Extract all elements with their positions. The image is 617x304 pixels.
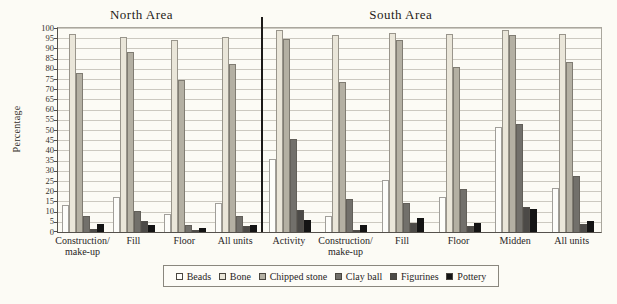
y-tick-mark: [54, 110, 58, 111]
bar-chipped-stone: [396, 40, 403, 232]
bar-figurines: [580, 224, 587, 232]
bar-clay-ball: [290, 139, 297, 232]
y-tick-label: 95: [32, 34, 54, 43]
y-tick-mark: [54, 201, 58, 202]
bar-beads: [439, 197, 446, 232]
bar-beads: [552, 188, 559, 232]
bar-bone: [171, 40, 178, 232]
bar-pottery: [474, 223, 481, 232]
gridline: [58, 120, 601, 121]
bar-chipped-stone: [178, 80, 185, 232]
bar-bone: [559, 34, 566, 232]
bar-figurines: [90, 229, 97, 232]
legend-item-chipped-stone: Chipped stone: [259, 271, 328, 282]
bar-figurines: [353, 230, 360, 232]
bar-bone: [276, 30, 283, 232]
bar-clay-ball: [83, 216, 90, 232]
bar-chipped-stone: [76, 73, 83, 232]
legend-item-bone: Bone: [219, 271, 251, 282]
x-category-label-line: make-up: [36, 246, 128, 257]
y-tick-label: 20: [32, 187, 54, 196]
legend-item-pottery: Pottery: [446, 271, 486, 282]
bar-beads: [113, 197, 120, 232]
y-tick-mark: [54, 130, 58, 131]
bar-beads: [62, 205, 69, 232]
gridline: [58, 89, 601, 90]
bar-figurines: [410, 223, 417, 232]
legend: BeadsBoneChipped stoneClay ballFigurines…: [163, 265, 499, 287]
legend-swatch-icon: [259, 273, 266, 280]
legend-swatch-icon: [446, 273, 453, 280]
legend-label: Beads: [187, 271, 211, 282]
legend-label: Pottery: [457, 271, 486, 282]
y-tick-mark: [54, 120, 58, 121]
y-tick-label: 80: [32, 64, 54, 73]
bar-clay-ball: [403, 203, 410, 232]
bar-pottery: [360, 225, 367, 232]
bar-chipped-stone: [127, 52, 134, 232]
y-tick-mark: [54, 28, 58, 29]
legend-item-figurines: Figurines: [390, 271, 439, 282]
bar-pottery: [250, 225, 257, 232]
legend-label: Figurines: [401, 271, 439, 282]
gridline: [58, 38, 601, 39]
gridline: [58, 28, 601, 29]
y-tick-label: 55: [32, 115, 54, 124]
figure: Percentage 05101520253035404550556065707…: [0, 0, 617, 304]
y-tick-label: 40: [32, 146, 54, 155]
gridline: [58, 99, 601, 100]
legend-item-beads: Beads: [176, 271, 211, 282]
bar-chipped-stone: [283, 39, 290, 232]
y-tick-label: 15: [32, 197, 54, 206]
y-tick-label: 65: [32, 95, 54, 104]
y-tick-mark: [54, 140, 58, 141]
bar-figurines: [523, 207, 530, 233]
y-tick-mark: [54, 161, 58, 162]
bar-bone: [446, 34, 453, 232]
y-tick-mark: [54, 150, 58, 151]
y-tick-label: 25: [32, 177, 54, 186]
y-tick-mark: [54, 38, 58, 39]
y-tick-label: 5: [32, 217, 54, 226]
y-tick-label: 100: [32, 24, 54, 33]
y-tick-label: 85: [32, 54, 54, 63]
y-tick-mark: [54, 69, 58, 70]
bar-bone: [332, 35, 339, 232]
plot-area: 0510152025303540455055606570758085909510…: [57, 27, 602, 233]
x-category-label-line: All units: [526, 235, 617, 246]
bar-bone: [389, 33, 396, 232]
bar-beads: [215, 203, 222, 232]
bar-figurines: [141, 221, 148, 232]
bar-beads: [495, 127, 502, 232]
panel-title: South Area: [369, 7, 432, 23]
bar-figurines: [467, 226, 474, 232]
y-tick-mark: [54, 79, 58, 80]
y-tick-mark: [54, 212, 58, 213]
bar-bone: [120, 37, 127, 232]
bar-clay-ball: [516, 124, 523, 232]
bar-beads: [382, 180, 389, 232]
bar-beads: [269, 159, 276, 232]
y-tick-label: 35: [32, 156, 54, 165]
x-category-label-line: make-up: [299, 246, 391, 257]
bar-clay-ball: [573, 176, 580, 232]
bar-beads: [164, 214, 171, 232]
bar-figurines: [297, 210, 304, 232]
legend-label: Clay ball: [346, 271, 382, 282]
legend-label: Bone: [230, 271, 251, 282]
legend-swatch-icon: [176, 273, 183, 280]
legend-item-clay-ball: Clay ball: [335, 271, 382, 282]
bar-pottery: [148, 225, 155, 232]
legend-label: Chipped stone: [270, 271, 328, 282]
y-tick-mark: [54, 89, 58, 90]
bar-clay-ball: [134, 211, 141, 232]
y-tick-label: 50: [32, 126, 54, 135]
gridline: [58, 69, 601, 70]
bar-pottery: [199, 228, 206, 232]
y-tick-mark: [54, 48, 58, 49]
y-tick-label: 60: [32, 105, 54, 114]
panel-title: North Area: [110, 7, 173, 23]
bar-clay-ball: [185, 225, 192, 232]
bar-beads: [325, 216, 332, 232]
bar-pottery: [530, 209, 537, 232]
